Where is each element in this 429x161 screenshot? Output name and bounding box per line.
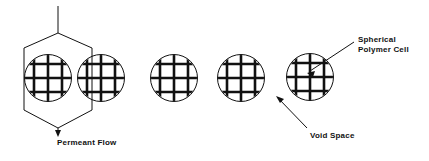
void-space-leader xyxy=(276,96,307,128)
spherical-polymer-cell-3 xyxy=(150,54,198,102)
spherical-polymer-cell-2 xyxy=(77,54,125,102)
void-space-arrow-icon xyxy=(276,96,284,103)
spherical-polymer-cell-label-line-1: Spherical xyxy=(358,35,409,45)
permeant-flow-label: Permeant Flow xyxy=(57,138,117,148)
spherical-polymer-cell-label-line-2: Polymer Cell xyxy=(358,45,409,55)
spherical-polymer-cell-4 xyxy=(217,54,265,102)
flow-arrow-icon xyxy=(55,130,61,137)
void-space-leader-line xyxy=(278,98,307,128)
figure-canvas: Permeant Flow Void Space Spherical Polym… xyxy=(0,0,429,161)
spherical-polymer-cell-1 xyxy=(24,54,72,102)
figure-diagram xyxy=(0,0,429,161)
void-space-label: Void Space xyxy=(310,131,355,141)
spherical-polymer-cell-label: Spherical Polymer Cell xyxy=(358,35,409,54)
